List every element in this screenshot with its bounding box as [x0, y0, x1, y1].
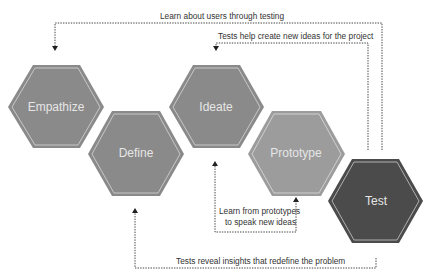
stage-label: Test — [365, 194, 388, 208]
stage-define: Define — [88, 111, 184, 196]
loop-label: Learn from prototypes — [219, 206, 300, 216]
loop-label: Learn about users through testing — [160, 11, 284, 21]
arrow-up-icon — [212, 161, 218, 166]
stage-label: Empathize — [28, 100, 85, 114]
stage-prototype: Prototype — [248, 111, 345, 196]
stage-ideate: Ideate — [169, 65, 264, 148]
loop-label: Tests reveal insights that redefine the … — [176, 256, 345, 266]
arrow-up-icon — [293, 197, 299, 202]
loop-label: to speak new ideas — [225, 217, 296, 227]
design-thinking-diagram: Empathize Define Ideate Prototype Test L… — [0, 0, 432, 273]
stage-label: Define — [119, 146, 154, 160]
stage-label: Ideate — [199, 100, 233, 114]
arrow-down-icon — [213, 46, 219, 51]
stage-test: Test — [328, 159, 423, 243]
arrow-up-icon — [132, 208, 138, 213]
arrow-down-icon — [52, 46, 58, 51]
loop-label: Tests help create new ideas for the proj… — [218, 31, 374, 41]
stage-label: Prototype — [270, 146, 322, 160]
stage-empathize: Empathize — [8, 65, 104, 148]
